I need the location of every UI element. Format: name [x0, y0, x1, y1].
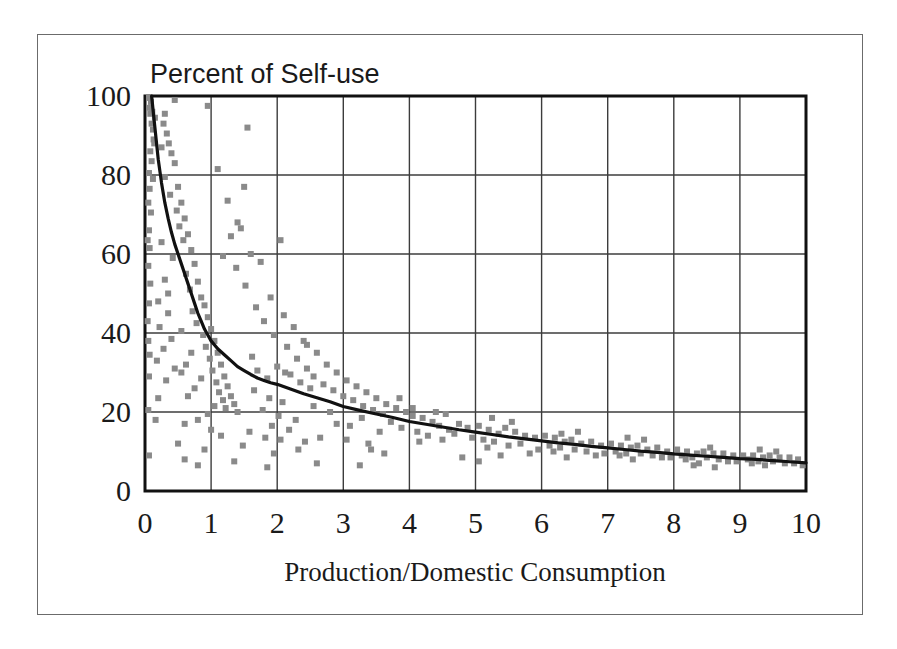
y-tick-label: 80 — [101, 158, 131, 191]
scatter-point — [182, 456, 188, 462]
scatter-point — [146, 373, 152, 379]
scatter-point — [608, 441, 614, 447]
scatter-point — [691, 462, 697, 468]
scatter-point — [557, 445, 563, 451]
x-tick-label: 8 — [666, 506, 681, 539]
scatter-point — [456, 421, 462, 427]
scatter-point — [198, 375, 204, 381]
scatter-point — [373, 395, 379, 401]
scatter-point — [233, 265, 239, 271]
scatter-point — [509, 419, 515, 425]
scatter-point — [625, 435, 631, 441]
scatter-point — [248, 251, 254, 257]
scatter-point — [393, 405, 399, 411]
scatter-point — [542, 433, 548, 439]
scatter-point — [302, 439, 308, 445]
scatter-point — [228, 233, 234, 239]
scatter-point — [683, 456, 689, 462]
scatter-point — [317, 435, 323, 441]
scatter-point — [215, 166, 221, 172]
y-tick-label: 20 — [101, 395, 131, 428]
scatter-point — [410, 405, 416, 411]
scatter-point — [344, 437, 350, 443]
scatter-point — [773, 449, 779, 455]
scatter-point — [293, 417, 299, 423]
scatter-point — [208, 427, 214, 433]
scatter-point — [720, 450, 726, 456]
scatter-point — [568, 437, 574, 443]
scatter-point — [271, 450, 277, 456]
scatter-point — [381, 450, 387, 456]
scatter-point — [634, 443, 640, 449]
scatter-point — [767, 452, 773, 458]
scatter-point — [357, 462, 363, 468]
scatter-point — [153, 417, 159, 423]
scatter-point — [254, 368, 260, 374]
scatter-point — [311, 373, 317, 379]
scatter-point — [161, 346, 167, 352]
scatter-point — [383, 401, 389, 407]
scatter-point — [284, 344, 290, 350]
scatter-point — [163, 377, 169, 383]
scatter-point — [195, 417, 201, 423]
scatter-point — [235, 409, 241, 415]
figure-root: 012345678910 020406080100 Percent of Sel… — [0, 0, 897, 649]
scatter-point — [696, 460, 702, 466]
scatter-point — [360, 403, 366, 409]
scatter-point — [146, 300, 152, 306]
scatter-point — [213, 379, 219, 385]
scatter-point — [150, 176, 156, 182]
scatter-point — [268, 294, 274, 300]
y-tick-label: 0 — [116, 474, 131, 507]
scatter-point — [601, 450, 607, 456]
scatter-point — [330, 387, 336, 393]
scatter-point — [147, 186, 153, 192]
y-tick-label: 40 — [101, 316, 131, 349]
scatter-point — [363, 389, 369, 395]
scatter-point — [161, 121, 167, 127]
scatter-point — [223, 405, 229, 411]
scatter-point — [238, 225, 244, 231]
scatter-point — [262, 435, 268, 441]
scatter-point — [182, 421, 188, 427]
scatter-point — [295, 447, 301, 453]
scatter-point — [211, 403, 217, 409]
scatter-point — [291, 324, 297, 330]
scatter-point — [244, 125, 250, 131]
chart-title: Percent of Self-use — [150, 59, 380, 89]
scatter-point — [147, 148, 153, 154]
scatter-point — [190, 308, 196, 314]
scatter-point — [154, 358, 160, 364]
scatter-point — [146, 227, 152, 233]
scatter-point — [168, 336, 174, 342]
scatter-point — [749, 460, 755, 466]
scatter-point — [159, 239, 165, 245]
scatter-point — [148, 210, 154, 216]
x-tick-label: 7 — [600, 506, 615, 539]
scatter-point — [194, 320, 200, 326]
scatter-point — [241, 184, 247, 190]
scatter-point — [410, 413, 416, 419]
y-tick-label: 100 — [86, 79, 131, 112]
scatter-point — [307, 385, 313, 391]
scatter-point — [145, 237, 151, 243]
scatter-point — [149, 158, 155, 164]
scatter-chart: 012345678910 020406080100 Percent of Sel… — [38, 35, 861, 613]
scatter-point — [786, 454, 792, 460]
scatter-point — [324, 362, 330, 368]
scatter-point — [147, 281, 153, 287]
scatter-point — [192, 261, 198, 267]
scatter-point — [320, 381, 326, 387]
y-tick-label: 60 — [101, 237, 131, 270]
x-axis-title: Production/Domestic Consumption — [284, 557, 666, 587]
scatter-point — [517, 441, 523, 447]
scatter-point — [396, 395, 402, 401]
scatter-point — [451, 431, 457, 437]
scatter-point — [185, 393, 191, 399]
scatter-point — [264, 464, 270, 470]
scatter-point — [218, 433, 224, 439]
scatter-point — [278, 437, 284, 443]
x-tick-label: 0 — [138, 506, 153, 539]
scatter-point — [282, 370, 288, 376]
scatter-point — [701, 449, 707, 455]
